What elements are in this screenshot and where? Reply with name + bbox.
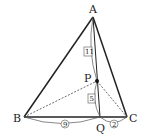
dashed-bp: [24, 81, 97, 117]
side-ac: [93, 17, 127, 117]
ratio-pq: 5: [90, 95, 94, 103]
label-c: C: [129, 112, 137, 125]
dashed-pc: [97, 81, 127, 117]
label-q: Q: [96, 122, 105, 135]
ratio-ap: 11: [85, 48, 94, 56]
triangle-diagram: A B C P Q 11 5 9 2: [0, 0, 145, 139]
label-p: P: [84, 72, 92, 85]
point-p-dot: [95, 79, 99, 83]
ratio-bq: 9: [63, 121, 67, 129]
label-a: A: [88, 3, 98, 16]
ratio-qc: 2: [112, 121, 116, 129]
side-ab: [24, 17, 93, 117]
label-b: B: [13, 112, 21, 125]
